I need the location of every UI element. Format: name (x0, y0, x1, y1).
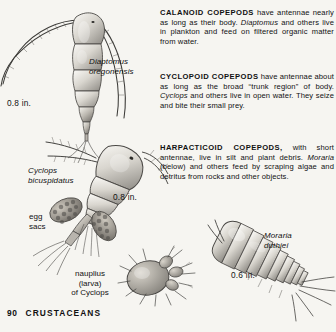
label-cyclops-species: Cyclops bicuspidatus (28, 166, 74, 185)
label-diaptomus-species: Diaptomus oregonensis (89, 57, 134, 76)
figure-diaptomus (1, 13, 125, 163)
italic-term-moraria: Moraria (308, 153, 334, 162)
field-guide-page: CALANOID COPEPODS have antennae nearly a… (0, 0, 336, 332)
label-cyclops-size: 0.8 in. (113, 193, 137, 203)
label-moraria-size: 0.6 in. (231, 271, 255, 281)
heading-harpacticoid: HARPACTICOID COPEPODS, (160, 143, 283, 152)
label-moraria-species: Moraria duthiei (264, 231, 292, 250)
heading-cyclopoid: CYCLOPOID COPEPODS (160, 72, 258, 81)
label-egg-sacs: egg sacs (29, 212, 45, 231)
paragraph-cyclopoid: CYCLOPOID COPEPODS have antennae about a… (160, 72, 334, 110)
label-nauplius-caption: nauplius (larva) of Cyclops (60, 269, 120, 298)
heading-calanoid: CALANOID COPEPODS (160, 8, 254, 17)
paragraph-harpacticoid: HARPACTICOID COPEPODS, with short antenn… (160, 143, 334, 181)
body-harpacticoid-part2: (below) and others feed by scraping alga… (160, 162, 334, 181)
italic-term-diaptomus: Diaptomus (241, 18, 278, 27)
page-number: 90 (7, 308, 18, 318)
paragraph-calanoid: CALANOID COPEPODS have antennae nearly a… (160, 8, 334, 46)
label-diaptomus-size: 0.8 in. (7, 99, 31, 109)
page-footer: 90CRUSTACEANS (7, 308, 101, 318)
section-title: CRUSTACEANS (26, 308, 102, 318)
figure-cyclops (33, 137, 170, 275)
figure-nauplius (118, 246, 195, 306)
italic-term-cyclops: Cyclops (160, 91, 188, 100)
